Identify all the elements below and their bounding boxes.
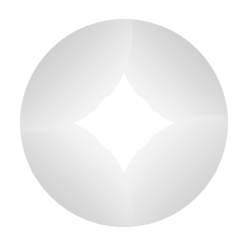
hub-circle <box>93 92 155 154</box>
pinwheel-logo: Abstract grayscale four-blade pinwheel m… <box>0 0 248 246</box>
image-canvas: Four-blade pinwheel logo Abstract graysc… <box>0 0 248 246</box>
